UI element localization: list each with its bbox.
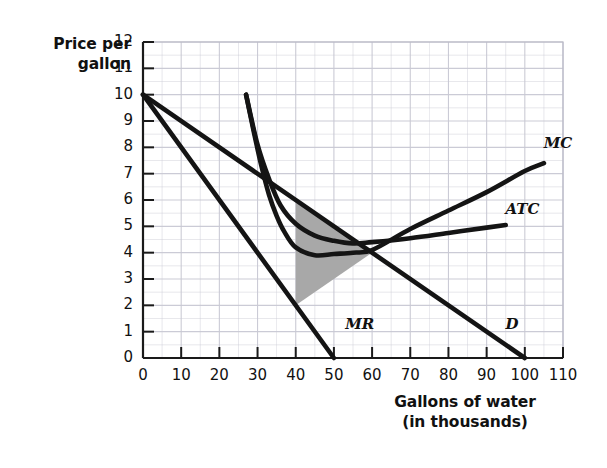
curve-label-mc: MC (544, 134, 573, 152)
x-tick-label-100: 100 (508, 366, 542, 384)
y-tick-label-11: 11 (107, 58, 133, 76)
y-tick-label-9: 9 (107, 111, 133, 129)
x-tick-label-90: 90 (470, 366, 504, 384)
curve-label-atc: ATC (506, 200, 540, 218)
x-tick-label-10: 10 (164, 366, 198, 384)
x-tick-label-70: 70 (393, 366, 427, 384)
x-tick-label-50: 50 (317, 366, 351, 384)
x-axis-title: Gallons of water (in thousands) (330, 392, 600, 433)
y-tick-label-4: 4 (107, 243, 133, 261)
x-tick-label-80: 80 (431, 366, 465, 384)
y-tick-label-0: 0 (107, 348, 133, 366)
y-tick-label-7: 7 (107, 164, 133, 182)
x-tick-label-110: 110 (546, 366, 580, 384)
x-tick-label-30: 30 (241, 366, 275, 384)
y-tick-label-6: 6 (107, 190, 133, 208)
x-tick-label-40: 40 (279, 366, 313, 384)
y-tick-label-5: 5 (107, 216, 133, 234)
curve-label-d: D (506, 315, 519, 333)
x-axis-title-line1: Gallons of water (330, 392, 600, 412)
x-tick-label-0: 0 (126, 366, 160, 384)
curve-label-mr: MR (345, 315, 374, 333)
y-tick-label-3: 3 (107, 269, 133, 287)
x-tick-label-20: 20 (202, 366, 236, 384)
y-tick-label-2: 2 (107, 295, 133, 313)
y-tick-label-10: 10 (107, 85, 133, 103)
x-tick-label-60: 60 (355, 366, 389, 384)
y-tick-label-1: 1 (107, 322, 133, 340)
y-tick-label-8: 8 (107, 137, 133, 155)
y-tick-label-12: 12 (107, 32, 133, 50)
x-axis-title-line2: (in thousands) (330, 412, 600, 432)
